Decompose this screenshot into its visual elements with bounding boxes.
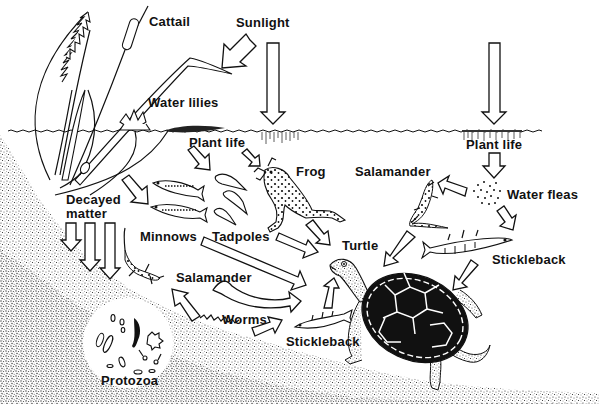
- reed-plant: [35, 12, 90, 180]
- label-salamander-upper: Salamander: [355, 165, 431, 178]
- label-salamander-lower: Salamander: [176, 271, 252, 284]
- label-cattail: Cattail: [149, 15, 190, 28]
- arrow-salamander-upper-to-turtle: [384, 231, 415, 266]
- label-tadpoles: Tadpoles: [212, 230, 270, 243]
- label-protozoa: Protozoa: [101, 374, 158, 387]
- label-minnows: Minnows: [140, 230, 197, 243]
- label-water-fleas: Water fleas: [507, 188, 578, 201]
- minnow-fish: [151, 181, 207, 222]
- water-surface: [8, 130, 542, 132]
- arrow-plant-life-to-water-fleas: [483, 153, 505, 178]
- label-water-lilies: Water lilies: [148, 96, 219, 109]
- label-sunlight: Sunlight: [236, 16, 290, 29]
- label-stickleback-lower: Stickleback: [286, 335, 360, 348]
- plant-life-roots-left: [262, 132, 298, 144]
- arrow-tadpoles-to-turtle: [276, 233, 318, 258]
- label-turtle: Turtle: [342, 239, 378, 252]
- label-plant-life-left: Plant life: [189, 136, 245, 149]
- label-worms: Worms: [222, 313, 267, 326]
- arrow-stickleback-upper-to-turtle: [453, 260, 478, 290]
- arrow-stickleback-lower-to-turtle: [324, 278, 339, 308]
- stickleback-fish-lower: [295, 310, 353, 328]
- arrow-sunlight-to-plant-life-right: [482, 43, 506, 124]
- arrow-sunlight-to-cattail: [222, 34, 256, 68]
- water-fleas: [473, 181, 501, 205]
- label-plant-life-right: Plant life: [466, 138, 522, 151]
- arrow-water-fleas-to-salamander: [438, 176, 467, 196]
- arrow-salamander-lower-to-turtle: [213, 281, 301, 312]
- arrow-sunlight-to-plant-life-left: [261, 43, 285, 124]
- label-decayed-matter-1: Decayed: [66, 193, 121, 206]
- arrow-water-lilies-to-minnows: [122, 175, 148, 204]
- tadpoles: [214, 174, 247, 225]
- label-stickleback-upper: Stickleback: [492, 253, 566, 266]
- arrow-plant-life-to-frog: [242, 149, 260, 166]
- arrow-decayed-matter-down-2: [80, 223, 100, 271]
- arrow-water-fleas-to-stickleback: [497, 206, 516, 230]
- arrow-decayed-matter-down-3: [100, 223, 120, 279]
- label-frog: Frog: [296, 165, 326, 178]
- label-decayed-matter-2: matter: [66, 207, 107, 220]
